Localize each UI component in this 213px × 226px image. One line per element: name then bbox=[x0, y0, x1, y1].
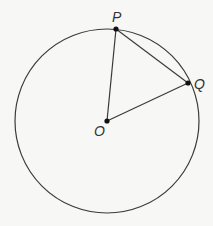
chord-pq bbox=[116, 29, 188, 83]
point-p bbox=[113, 26, 118, 31]
label-o: O bbox=[94, 123, 105, 139]
point-q bbox=[185, 80, 190, 85]
label-q: Q bbox=[194, 76, 205, 92]
segment-op bbox=[107, 29, 116, 121]
segment-oq bbox=[107, 83, 188, 121]
point-o bbox=[104, 118, 109, 123]
geometry-diagram: P Q O bbox=[0, 0, 213, 226]
diagram-svg: P Q O bbox=[0, 0, 213, 226]
label-p: P bbox=[112, 9, 122, 25]
